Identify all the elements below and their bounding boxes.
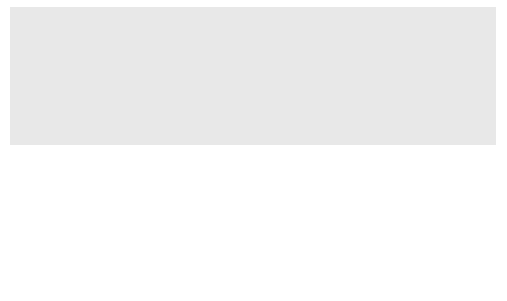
outer-frame <box>10 7 496 145</box>
